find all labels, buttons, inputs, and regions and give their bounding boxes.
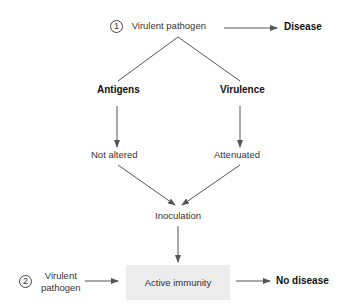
inoculation-label: Inoculation [155, 210, 201, 221]
antigens-label: Antigens [97, 84, 140, 95]
line-pathogen-to-antigens [118, 37, 178, 81]
scenario1-node: 1 Virulent pathogen [110, 20, 206, 33]
virulent-pathogen-label: Virulent pathogen [132, 20, 206, 31]
disease-label: Disease [284, 21, 322, 32]
arrow-not-altered-to-inoculation [118, 165, 175, 205]
arrow-attenuated-to-inoculation [182, 165, 240, 205]
active-immunity-label: Active immunity [145, 277, 212, 288]
virulent-pathogen-2-line1: Virulent [41, 270, 81, 282]
diagram-connectors [0, 0, 348, 307]
not-altered-label: Not altered [91, 149, 137, 160]
circled-number-2-wrap: 2 [19, 275, 32, 288]
circled-number-1: 1 [110, 20, 123, 33]
no-disease-label: No disease [276, 275, 329, 286]
virulent-pathogen-2-line2: pathogen [41, 282, 81, 294]
circled-number-2: 2 [19, 275, 32, 288]
line-pathogen-to-virulence [178, 37, 240, 81]
virulent-pathogen-2-label: Virulent pathogen [41, 270, 81, 294]
virulence-label: Virulence [220, 84, 265, 95]
active-immunity-box: Active immunity [126, 265, 230, 300]
attenuated-label: Attenuated [214, 149, 260, 160]
